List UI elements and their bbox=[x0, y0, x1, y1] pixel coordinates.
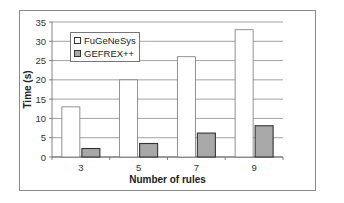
bar-chart: 051015202530353579Number of rulesTime (s… bbox=[0, 0, 344, 203]
legend-label-gefrex: GEFREX++ bbox=[84, 47, 134, 60]
legend-swatch-gefrex bbox=[74, 50, 81, 57]
y-tick-label: 0 bbox=[41, 152, 46, 163]
bar-fugenesys-3 bbox=[62, 107, 80, 157]
bar-gefrex-9 bbox=[255, 126, 273, 157]
y-tick-label: 25 bbox=[35, 55, 46, 66]
legend: FuGeNeSys GEFREX++ bbox=[70, 32, 140, 62]
y-tick-label: 35 bbox=[35, 17, 46, 28]
legend-item-gefrex: GEFREX++ bbox=[74, 47, 136, 60]
y-tick-label: 20 bbox=[35, 74, 46, 85]
bar-gefrex-7 bbox=[197, 133, 215, 157]
bar-fugenesys-7 bbox=[177, 57, 195, 157]
y-tick-label: 10 bbox=[35, 113, 46, 124]
bar-gefrex-5 bbox=[140, 144, 158, 158]
bar-gefrex-3 bbox=[82, 149, 100, 157]
legend-item-fugenesys: FuGeNeSys bbox=[74, 34, 136, 47]
x-tick-label: 3 bbox=[78, 162, 83, 173]
x-tick-label: 5 bbox=[136, 162, 141, 173]
bar-fugenesys-9 bbox=[235, 30, 253, 157]
y-tick-label: 30 bbox=[35, 36, 46, 47]
legend-swatch-fugenesys bbox=[74, 37, 81, 44]
y-axis-title: Time (s) bbox=[22, 70, 33, 108]
x-tick-label: 7 bbox=[194, 162, 199, 173]
bar-fugenesys-5 bbox=[120, 80, 138, 157]
x-tick-label: 9 bbox=[251, 162, 256, 173]
x-axis-title: Number of rules bbox=[129, 174, 206, 185]
legend-label-fugenesys: FuGeNeSys bbox=[84, 34, 136, 47]
y-tick-label: 15 bbox=[35, 94, 46, 105]
y-tick-label: 5 bbox=[41, 132, 46, 143]
